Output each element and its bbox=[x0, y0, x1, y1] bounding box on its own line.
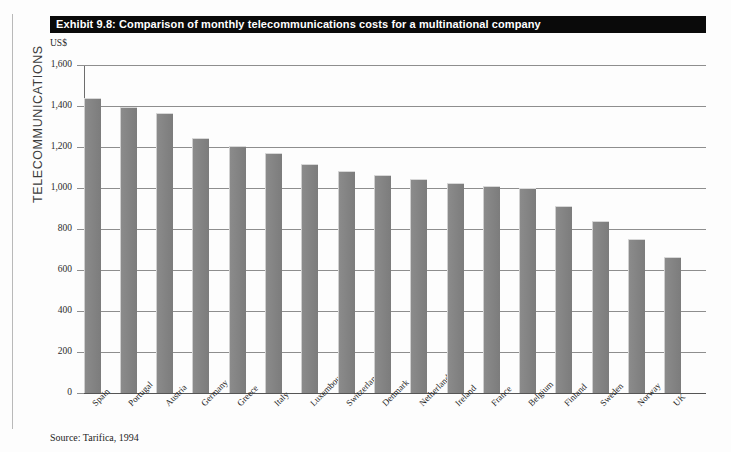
bar-norway bbox=[628, 239, 645, 393]
bar-denmark bbox=[374, 175, 391, 393]
y-axis-tick-label: 0 bbox=[32, 387, 72, 397]
bar-france bbox=[483, 186, 500, 393]
x-axis-label-uk: UK bbox=[671, 392, 687, 408]
bar-uk bbox=[664, 257, 681, 393]
gridline bbox=[84, 147, 706, 148]
bar-germany bbox=[192, 138, 209, 393]
x-axis-label-sweden: Sweden bbox=[598, 381, 625, 408]
y-axis-tick bbox=[77, 311, 84, 312]
bar-spain bbox=[84, 98, 101, 393]
x-axis-label-italy: Italy bbox=[272, 389, 291, 408]
x-axis-label-germany: Germany bbox=[199, 377, 230, 408]
y-axis-tick bbox=[77, 352, 84, 353]
x-axis-label-greece: Greece bbox=[235, 383, 260, 408]
gridline bbox=[84, 65, 706, 66]
gridline bbox=[84, 188, 706, 189]
y-axis-tick-label: 800 bbox=[32, 223, 72, 233]
bar-luxembourg bbox=[301, 164, 318, 393]
side-rule-divider bbox=[12, 14, 13, 429]
y-axis-line bbox=[84, 65, 85, 394]
gridline bbox=[84, 352, 706, 353]
y-axis-tick-label: 600 bbox=[32, 264, 72, 274]
x-axis-label-finland: Finland bbox=[562, 382, 589, 409]
gridline bbox=[84, 229, 706, 230]
bar-greece bbox=[229, 146, 246, 393]
exhibit-page: TELECOMMUNICATIONS Exhibit 9.8: Comparis… bbox=[0, 0, 731, 452]
x-axis-label-spain: Spain bbox=[90, 386, 112, 408]
exhibit-title-bar: Exhibit 9.8: Comparison of monthly telec… bbox=[50, 16, 706, 33]
source-note: Source: Tarifica, 1994 bbox=[50, 432, 139, 443]
gridline bbox=[84, 270, 706, 271]
gridline bbox=[84, 106, 706, 107]
y-axis-tick bbox=[77, 188, 84, 189]
gridline bbox=[84, 311, 706, 312]
bar-switzerland bbox=[338, 171, 355, 393]
y-axis-tick bbox=[77, 270, 84, 271]
bar-netherlands bbox=[410, 179, 427, 393]
bar-portugal bbox=[120, 107, 137, 393]
y-axis-tick bbox=[77, 65, 84, 66]
bar-ireland bbox=[447, 183, 464, 393]
bar-finland bbox=[555, 206, 572, 393]
y-axis-tick-label: 400 bbox=[32, 305, 72, 315]
x-axis-label-switzerland: Switzerland bbox=[344, 371, 381, 408]
bar-chart-plot: 02004006008001,0001,2001,4001,600SpainPo… bbox=[0, 0, 731, 452]
y-axis-tick bbox=[77, 106, 84, 107]
bar-italy bbox=[265, 153, 282, 393]
x-axis-label-portugal: Portugal bbox=[126, 379, 155, 408]
y-axis-tick bbox=[77, 393, 84, 394]
x-axis-label-france: France bbox=[489, 384, 513, 408]
bar-belgium bbox=[519, 188, 536, 393]
x-axis-label-netherlands: Netherlands bbox=[417, 370, 455, 408]
y-axis-unit-label: US$ bbox=[50, 38, 67, 48]
x-axis-label-belgium: Belgium bbox=[526, 379, 555, 408]
bar-sweden bbox=[592, 221, 609, 393]
x-axis-line bbox=[84, 393, 706, 394]
bar-austria bbox=[156, 113, 173, 393]
x-axis-label-norway: Norway bbox=[635, 380, 663, 408]
x-axis-label-austria: Austria bbox=[163, 382, 189, 408]
y-axis-tick bbox=[77, 147, 84, 148]
y-axis-tick bbox=[77, 229, 84, 230]
x-axis-label-luxembourg: Luxembourg bbox=[308, 368, 348, 408]
x-axis-label-denmark: Denmark bbox=[380, 377, 411, 408]
x-axis-label-ireland: Ireland bbox=[453, 383, 478, 408]
y-axis-tick-label: 200 bbox=[32, 346, 72, 356]
section-label: TELECOMMUNICATIONS bbox=[31, 3, 45, 203]
